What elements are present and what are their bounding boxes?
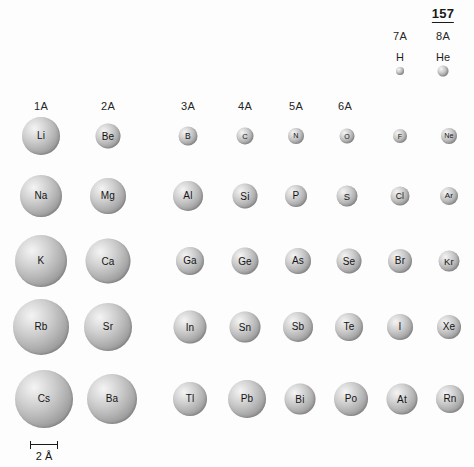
group-label-3a: 3A xyxy=(181,100,195,112)
group-label-2a: 2A xyxy=(101,100,115,112)
atom-symbol-rb: Rb xyxy=(34,322,47,332)
group-label-5a: 5A xyxy=(289,100,303,112)
atom-cl: Cl xyxy=(391,187,410,206)
atom-ca: Ca xyxy=(86,239,131,284)
atom-symbol-h: H xyxy=(396,51,404,63)
atom-at: At xyxy=(387,384,418,415)
atom-mg: Mg xyxy=(90,178,126,214)
page-number: 157 xyxy=(432,6,454,23)
atom-ge: Ge xyxy=(232,248,259,275)
atom-kr: Kr xyxy=(439,251,460,272)
atom-ne: Ne xyxy=(441,128,457,144)
atom-symbol-ga: Ga xyxy=(183,256,197,266)
atom-symbol-be: Be xyxy=(102,131,115,141)
scale-bar-line xyxy=(30,444,58,445)
atom-symbol-xe: Xe xyxy=(443,322,456,332)
atom-o: O xyxy=(340,129,355,144)
atom-te: Te xyxy=(335,313,363,341)
atomic-radii-figure: 157 1A2A3A4A5A6A7A8A HHHeHe LiBeBCNOFNeN… xyxy=(0,0,474,467)
atom-symbol-s: S xyxy=(344,191,351,200)
atom-po: Po xyxy=(334,382,368,416)
atom-symbol-mg: Mg xyxy=(101,191,115,201)
atom-symbol-at: At xyxy=(397,394,407,404)
atom-ga: Ga xyxy=(176,247,204,275)
atom-symbol-ar: Ar xyxy=(445,192,454,200)
atom-sb: Sb xyxy=(283,312,313,342)
group-label-7a: 7A xyxy=(393,30,407,42)
atom-rn: Rn xyxy=(436,385,464,413)
atom-ba: Ba xyxy=(87,374,137,424)
atom-symbol-br: Br xyxy=(395,256,405,266)
group-label-8a: 8A xyxy=(436,30,450,42)
atom-s: S xyxy=(337,186,358,207)
atom-symbol-bi: Bi xyxy=(295,394,304,404)
atom-symbol-li: Li xyxy=(37,131,45,141)
atom-sn: Sn xyxy=(230,312,261,343)
atom-k: K xyxy=(15,235,67,287)
atom-al: Al xyxy=(173,181,203,211)
atom-pb: Pb xyxy=(228,380,266,418)
scale-bar-caption: 2 Å xyxy=(30,450,58,462)
atom-in: In xyxy=(174,311,207,344)
atom-ar: Ar xyxy=(440,187,458,205)
atom-symbol-ge: Ge xyxy=(238,256,252,266)
atom-symbol-ba: Ba xyxy=(106,394,119,404)
atom-symbol-sb: Sb xyxy=(292,322,305,332)
atom-symbol-b: B xyxy=(185,132,191,141)
atom-symbol-pb: Pb xyxy=(241,394,254,404)
atom-symbol-kr: Kr xyxy=(444,256,454,265)
atom-i: I xyxy=(387,314,413,340)
atom-symbol-te: Te xyxy=(344,322,355,332)
atom-symbol-c: C xyxy=(242,132,248,140)
atom-bi: Bi xyxy=(285,384,316,415)
atom-symbol-ne: Ne xyxy=(444,132,454,139)
atom-n: N xyxy=(288,128,304,144)
atom-symbol-rn: Rn xyxy=(443,394,456,404)
atom-symbol-si: Si xyxy=(240,191,249,201)
atom-tl: Tl xyxy=(173,382,207,416)
atom-se: Se xyxy=(337,249,362,274)
atom-b: B xyxy=(179,127,198,146)
atom-symbol-p: P xyxy=(293,191,300,201)
atom-h: H xyxy=(396,67,404,75)
atom-symbol-na: Na xyxy=(34,191,47,201)
atom-p: P xyxy=(285,185,307,207)
atom-symbol-in: In xyxy=(186,322,195,332)
atom-xe: Xe xyxy=(437,315,461,339)
atom-symbol-as: As xyxy=(292,256,304,266)
atom-symbol-sn: Sn xyxy=(239,322,252,332)
atom-symbol-cl: Cl xyxy=(396,192,404,201)
atom-f: F xyxy=(393,129,407,143)
atom-sr: Sr xyxy=(84,303,132,351)
atom-symbol-f: F xyxy=(398,133,402,140)
atom-symbol-al: Al xyxy=(183,191,192,201)
atom-si: Si xyxy=(233,184,258,209)
atom-rb: Rb xyxy=(13,299,69,355)
atom-symbol-o: O xyxy=(344,133,350,140)
atom-symbol-n: N xyxy=(293,132,298,139)
atom-as: As xyxy=(285,248,311,274)
atom-symbol-se: Se xyxy=(343,256,356,266)
atom-symbol-tl: Tl xyxy=(186,394,195,404)
atom-symbol-i: I xyxy=(399,322,402,332)
atom-li: Li xyxy=(22,117,60,155)
atom-cs: Cs xyxy=(15,370,73,428)
atom-symbol-sr: Sr xyxy=(103,322,113,332)
atom-br: Br xyxy=(388,249,412,273)
group-label-6a: 6A xyxy=(338,100,352,112)
group-label-4a: 4A xyxy=(238,100,252,112)
atom-symbol-cs: Cs xyxy=(38,394,51,404)
atom-symbol-k: K xyxy=(38,256,45,266)
atom-c: C xyxy=(237,128,254,145)
atom-symbol-ca: Ca xyxy=(101,256,114,266)
group-label-1a: 1A xyxy=(34,100,48,112)
atom-na: Na xyxy=(20,175,62,217)
atom-symbol-he: He xyxy=(436,51,450,63)
scale-bar-tick-right xyxy=(57,441,58,449)
atom-be: Be xyxy=(96,124,121,149)
scale-bar-tick-left xyxy=(30,441,31,449)
atom-he: He xyxy=(438,66,449,77)
atom-symbol-po: Po xyxy=(345,394,358,404)
